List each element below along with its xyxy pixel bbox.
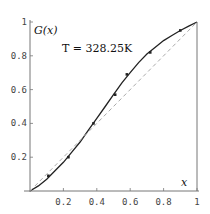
y-tick-label: 1 — [22, 17, 27, 27]
x-tick-label: 0.8 — [155, 197, 171, 207]
x-axis-title: x — [181, 176, 188, 189]
y-tick-label: 0.6 — [11, 85, 27, 95]
temperature-annotation: T = 328.25K — [62, 42, 133, 55]
chart: 0.20.40.60.810.20.40.60.81 G(x) x T = 32… — [0, 0, 210, 214]
x-tick-label: 0.6 — [122, 197, 138, 207]
y-tick-label: 0.2 — [11, 152, 27, 162]
data-point — [126, 73, 129, 76]
x-tick-label: 0.4 — [89, 197, 105, 207]
data-point — [114, 93, 117, 96]
data-point — [179, 29, 182, 32]
x-tick-label: 0.2 — [55, 197, 71, 207]
x-tick-label: 1 — [194, 197, 199, 207]
data-point — [149, 51, 152, 54]
y-axis-title: G(x) — [34, 24, 58, 37]
data-point — [92, 122, 95, 125]
data-point — [47, 174, 50, 177]
y-tick-label: 0.8 — [11, 51, 27, 61]
data-point — [67, 156, 70, 159]
y-tick-label: 0.4 — [11, 118, 27, 128]
